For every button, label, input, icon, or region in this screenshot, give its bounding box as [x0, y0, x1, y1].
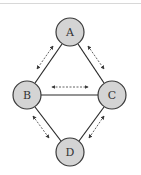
flow-arrow-a-b: [37, 46, 53, 69]
node-b: B: [13, 81, 41, 109]
edge-c-d: [79, 107, 104, 141]
node-a: A: [56, 18, 84, 46]
network-diagram: A B C D: [0, 0, 141, 175]
node-a-label: A: [65, 26, 75, 39]
edges: [35, 44, 104, 141]
flow-arrows: [33, 46, 104, 138]
node-d: D: [56, 138, 84, 166]
edge-b-d: [35, 107, 61, 141]
edge-a-b: [35, 44, 62, 83]
node-c: C: [98, 81, 126, 109]
node-b-label: B: [23, 89, 31, 102]
flow-arrow-b-d: [33, 116, 49, 138]
flow-arrow-a-c: [88, 46, 104, 69]
node-d-label: D: [66, 146, 75, 159]
flow-arrow-c-d: [89, 116, 104, 138]
node-c-label: C: [108, 89, 116, 102]
